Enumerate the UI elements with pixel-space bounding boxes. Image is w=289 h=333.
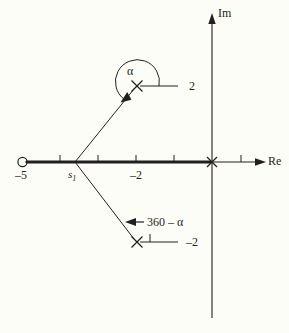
imag-axis-arrowhead xyxy=(208,13,215,24)
alpha-angle-arc xyxy=(115,60,159,100)
complement-angle-arrowhead xyxy=(125,218,136,226)
axis-label-minus-five: –5 xyxy=(15,169,27,181)
imag-axis-label: Im xyxy=(218,7,231,19)
complement-angle-label: 360 – α xyxy=(147,216,183,228)
vector-to-lower-pole xyxy=(75,162,134,239)
lower-pole-imag-label: –2 xyxy=(186,236,198,248)
real-axis-label: Re xyxy=(268,155,281,167)
upper-pole-imag-label: 2 xyxy=(189,80,195,92)
root-locus-diagram xyxy=(0,0,289,333)
axis-label-minus-two: –2 xyxy=(130,169,142,181)
alpha-angle-label: α xyxy=(127,65,133,77)
figure-canvas: Im Re –5 –2 s1 α 2 –2 360 – α xyxy=(0,0,289,333)
test-point-label-subscript: 1 xyxy=(72,174,76,183)
real-axis-arrowhead xyxy=(255,158,266,165)
test-point-label: s1 xyxy=(68,169,76,183)
